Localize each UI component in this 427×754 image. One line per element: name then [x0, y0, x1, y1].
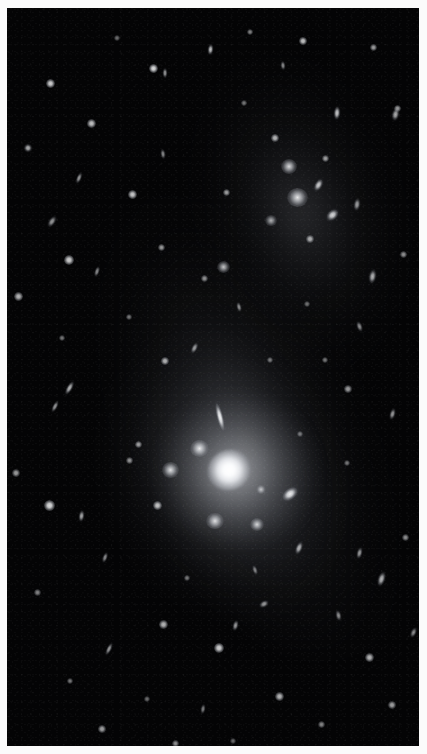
point-source — [172, 740, 179, 747]
point-source — [184, 575, 190, 581]
point-source — [370, 44, 377, 51]
point-source — [304, 301, 310, 307]
point-source — [128, 190, 137, 199]
point-source — [297, 431, 303, 437]
point-source — [365, 653, 374, 662]
point-source — [158, 244, 165, 251]
edge-on-galaxy — [322, 205, 343, 225]
point-source — [67, 678, 73, 684]
edge-on-galaxy — [366, 267, 378, 285]
edge-on-galaxy — [188, 340, 200, 356]
point-source — [271, 134, 279, 142]
point-source — [394, 105, 401, 112]
edge-on-galaxy — [23, 143, 33, 153]
point-source — [223, 189, 230, 196]
edge-on-galaxy — [44, 213, 59, 230]
edge-on-galaxy — [310, 176, 326, 194]
edge-on-galaxy — [74, 170, 85, 185]
point-source — [299, 37, 307, 45]
point-source — [322, 155, 329, 162]
edge-on-galaxy — [277, 482, 303, 507]
elliptical-galaxy — [190, 440, 209, 457]
edge-on-galaxy — [374, 569, 388, 589]
edge-on-galaxy — [206, 42, 214, 56]
point-source — [247, 29, 253, 35]
point-source — [159, 620, 168, 629]
elliptical-galaxy — [281, 159, 297, 174]
edge-on-galaxy — [387, 406, 398, 421]
point-source — [275, 692, 284, 701]
point-source — [114, 35, 120, 41]
point-source — [402, 534, 409, 541]
edge-on-galaxy — [100, 550, 110, 564]
edge-on-galaxy — [49, 398, 61, 414]
edge-on-galaxy — [354, 545, 364, 560]
elliptical-galaxy — [265, 215, 277, 226]
astronomical-image-figure: Deep greyscale astronomical image of a g… — [0, 0, 427, 754]
point-source — [344, 385, 352, 393]
elliptical-galaxy — [217, 261, 230, 273]
brightest-cluster-galaxy — [200, 442, 258, 498]
edge-on-galaxy — [235, 300, 244, 313]
elliptical-galaxy — [287, 188, 308, 207]
point-source — [34, 589, 41, 596]
point-source — [322, 357, 328, 363]
edge-on-galaxy — [333, 608, 343, 622]
edge-on-galaxy — [92, 264, 102, 278]
elliptical-galaxy — [206, 513, 224, 529]
edge-on-galaxy — [103, 640, 115, 657]
point-source — [149, 64, 158, 73]
point-source — [126, 457, 133, 464]
edge-on-galaxy — [332, 105, 341, 122]
edge-on-galaxy — [407, 625, 419, 640]
point-source — [46, 79, 55, 88]
point-source — [87, 119, 96, 128]
bcg-halo-glow — [157, 396, 317, 546]
point-source — [64, 255, 74, 265]
edge-on-galaxy — [292, 539, 305, 557]
elliptical-galaxy — [256, 485, 266, 494]
point-source — [214, 643, 224, 653]
point-source — [98, 725, 106, 733]
elliptical-galaxy — [250, 518, 264, 531]
edge-on-galaxy — [61, 378, 76, 397]
point-source — [388, 701, 396, 709]
edge-on-galaxy — [230, 618, 240, 632]
point-source — [153, 501, 162, 510]
edge-on-galaxy — [279, 59, 286, 71]
edge-on-galaxy — [257, 598, 271, 611]
northern-halo-extension — [108, 8, 419, 415]
point-source — [344, 460, 350, 466]
point-source — [59, 335, 65, 341]
point-source — [135, 441, 142, 448]
edge-on-galaxy — [352, 196, 362, 212]
point-source — [161, 357, 169, 365]
point-source — [14, 292, 23, 301]
edge-on-galaxy — [250, 563, 259, 576]
edge-on-galaxy — [77, 509, 86, 524]
point-source — [318, 721, 325, 728]
edge-on-galaxy — [389, 106, 401, 123]
point-source — [400, 251, 407, 258]
edge-on-galaxy — [199, 703, 207, 716]
edge-on-galaxy — [162, 67, 168, 79]
photographic-grain — [7, 8, 419, 746]
inner-cd-envelope — [34, 266, 419, 700]
point-source — [12, 469, 20, 477]
edge-on-galaxy — [159, 148, 167, 161]
point-source — [201, 275, 208, 282]
point-source — [267, 357, 273, 363]
sky-plate — [7, 8, 419, 746]
point-source — [230, 738, 236, 744]
point-source — [306, 235, 314, 243]
edge-on-galaxy — [353, 319, 364, 334]
point-source — [126, 314, 132, 320]
point-source — [241, 100, 247, 106]
point-source — [44, 500, 55, 511]
point-source — [144, 696, 150, 702]
elliptical-galaxy — [162, 462, 179, 478]
edge-on-galaxy — [212, 399, 228, 436]
intracluster-light-envelope — [7, 8, 419, 714]
